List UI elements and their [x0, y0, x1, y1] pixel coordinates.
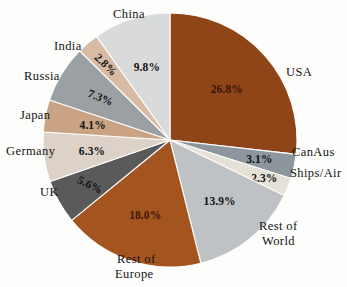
slice-label-usa: USA [286, 66, 312, 80]
slice-label-canaus: CanAus [292, 146, 335, 160]
slice-percent-label: 4.1% [80, 119, 106, 131]
slice-label-russia: Russia [24, 70, 60, 84]
slice-label-china: China [113, 8, 145, 22]
slice-label-ships-air: Ships/Air [290, 167, 342, 181]
slice-percent-label: 18.0% [129, 209, 161, 221]
slice-label-japan: Japan [20, 109, 50, 123]
slice-label-rest-of-world-line1: Rest of [259, 220, 298, 234]
slice-percent-label: 6.3% [79, 145, 105, 157]
slice-label-uk: UK [40, 186, 59, 200]
slice-label-rest-of-world-line2: World [262, 235, 295, 249]
slice-percent-label: 13.9% [204, 195, 236, 207]
slice-label-rest-of-europe-line2: Europe [115, 268, 154, 282]
slice-percent-label: 3.1% [246, 153, 272, 165]
pie-chart: 26.8%3.1%2.3%13.9%18.0%5.6%6.3%4.1%7.3%2… [0, 0, 347, 287]
slice-label-germany: Germany [6, 145, 55, 159]
slice-percent-label: 9.8% [134, 61, 160, 73]
slice-percent-label: 26.8% [211, 83, 243, 95]
slice-label-rest-of-europe-line1: Rest of [117, 253, 156, 267]
slice-label-india: India [54, 40, 82, 54]
